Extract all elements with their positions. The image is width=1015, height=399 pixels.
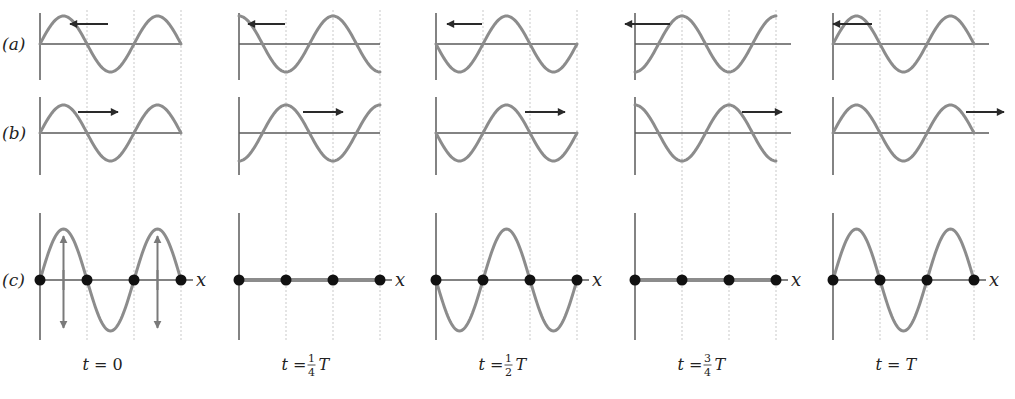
row-label-b: (b) — [2, 123, 26, 143]
standing-wave-diagram: (a) (b) (c) xt = 0xt = 14Txt = 12Txt = 3… — [0, 0, 1015, 399]
x-axis-label: x — [196, 269, 206, 290]
node-point — [375, 275, 386, 286]
x-axis-label: x — [989, 269, 999, 290]
row-label-c: (c) — [2, 270, 25, 290]
node-point — [328, 275, 339, 286]
panel-t0: xt = 0 — [35, 10, 207, 374]
node-point — [525, 275, 536, 286]
node-point — [771, 275, 782, 286]
panel-tT: xt = T — [828, 10, 1005, 374]
node-point — [478, 275, 489, 286]
panel-t34: xt = 34T — [625, 10, 801, 379]
fraction-numerator: 1 — [308, 352, 315, 365]
node-point — [129, 275, 140, 286]
node-point — [35, 275, 46, 286]
node-point — [176, 275, 187, 286]
node-point — [572, 275, 583, 286]
node-point — [630, 275, 641, 286]
node-point — [82, 275, 93, 286]
x-axis-label: x — [791, 269, 801, 290]
panel-t14: xt = 14T — [234, 10, 406, 379]
node-point — [922, 275, 933, 286]
panel-t12: xt = 12T — [431, 10, 603, 379]
fraction-denominator: 4 — [308, 366, 315, 379]
fraction-numerator: 3 — [704, 352, 711, 365]
time-suffix: T — [715, 355, 727, 374]
node-point — [281, 275, 292, 286]
fraction-numerator: 1 — [505, 352, 512, 365]
node-point — [234, 275, 245, 286]
time-label: t = — [678, 355, 703, 374]
fraction-denominator: 4 — [704, 366, 711, 379]
node-point — [969, 275, 980, 286]
node-point — [828, 275, 839, 286]
time-label: t = T — [876, 355, 918, 374]
x-axis-label: x — [592, 269, 602, 290]
x-axis-label: x — [395, 269, 405, 290]
time-suffix: T — [516, 355, 528, 374]
fraction-denominator: 2 — [505, 366, 512, 379]
row-label-a: (a) — [2, 34, 25, 54]
time-label: t = — [479, 355, 504, 374]
node-point — [724, 275, 735, 286]
time-label: t = — [282, 355, 307, 374]
time-label: t = 0 — [83, 355, 123, 374]
node-point — [677, 275, 688, 286]
node-point — [875, 275, 886, 286]
time-suffix: T — [319, 355, 331, 374]
node-point — [431, 275, 442, 286]
